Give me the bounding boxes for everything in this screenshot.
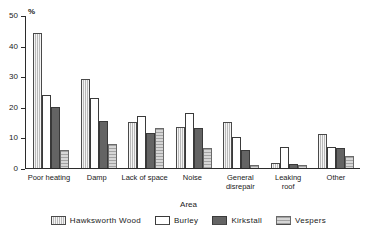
x-axis-category-label: Damp [73,171,121,197]
y-axis-tick: 50 [21,16,25,17]
plot-area: 01020304050 [25,16,360,169]
legend-label: Hawksworth Wood [70,216,141,225]
x-axis-category-label: Leaking roof [264,171,312,197]
bar-hawksworth-wood [223,122,232,168]
bar-vespers [60,150,69,168]
bar-group [217,16,265,168]
legend-item-kirkstall[interactable]: Kirkstall [212,216,262,225]
bar-groups [26,16,360,168]
legend-item-burley[interactable]: Burley [155,216,198,225]
legend-swatch-icon [155,216,170,225]
legend-label: Vespers [295,216,326,225]
y-axis-tick: 0 [21,169,25,170]
legend-label: Kirkstall [231,216,262,225]
bar-vespers [250,165,259,168]
bar-hawksworth-wood [33,33,42,168]
y-axis-tick-label: 30 [9,72,18,81]
bar-kirkstall [99,121,108,168]
bar-burley [280,147,289,168]
bar-vespers [108,144,117,168]
bar-group [122,16,170,168]
bar-burley [42,95,51,168]
x-axis-category-labels: Poor heatingDampLack of spaceNoiseGenera… [25,171,360,197]
y-axis-tick-label: 20 [9,103,18,112]
bar-hawksworth-wood [318,134,327,168]
bar-group [170,16,218,168]
bar-vespers [203,148,212,168]
bar-hawksworth-wood [81,79,90,168]
bar-group [75,16,123,168]
bar-kirkstall [51,107,60,168]
bar-group [26,16,75,168]
y-axis-tick-label: 10 [9,133,18,142]
bar-group [265,16,313,168]
x-axis-category-label: Lack of space [121,171,169,197]
y-axis-tick-label: 40 [9,42,18,51]
legend-label: Burley [174,216,198,225]
bar-kirkstall [336,148,345,168]
bar-burley [185,113,194,168]
y-axis-tick-label: 0 [14,164,18,173]
y-axis-tick: 30 [21,77,25,78]
legend-swatch-icon [212,216,227,225]
bar-burley [90,98,99,168]
x-axis-category-label: Poor heating [25,171,73,197]
y-axis-tick-label: 50 [9,11,18,20]
legend-swatch-icon [276,216,291,225]
chart-legend: Hawksworth WoodBurleyKirkstallVespers [0,216,377,225]
x-axis-category-label: Noise [169,171,217,197]
y-axis-unit-label: % [28,8,35,16]
x-axis-title: Area [0,200,377,209]
y-axis-tick: 10 [21,138,25,139]
bar-kirkstall [146,133,155,168]
bar-hawksworth-wood [271,163,280,168]
x-axis-line [25,168,360,169]
bar-burley [137,116,146,168]
bar-kirkstall [241,150,250,168]
bar-chart: % 01020304050 Poor heatingDampLack of sp… [0,0,377,242]
y-axis-tick: 40 [21,47,25,48]
bar-hawksworth-wood [128,122,137,168]
y-axis-tick: 20 [21,108,25,109]
bar-kirkstall [289,164,298,168]
bar-hawksworth-wood [176,127,185,168]
bar-kirkstall [194,128,203,168]
bar-burley [327,147,336,168]
bar-vespers [155,128,164,168]
x-axis-category-label: General disrepair [216,171,264,197]
bar-vespers [298,165,307,168]
legend-item-vespers[interactable]: Vespers [276,216,326,225]
bar-burley [232,137,241,168]
x-axis-category-label: Other [312,171,360,197]
legend-item-hawksworth-wood[interactable]: Hawksworth Wood [51,216,141,225]
bar-group [312,16,360,168]
bar-vespers [345,156,354,168]
legend-swatch-icon [51,216,66,225]
